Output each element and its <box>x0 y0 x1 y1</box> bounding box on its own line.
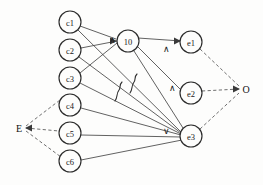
gate-and-e2: ∧ <box>169 83 176 93</box>
dashed-edge-group-input <box>25 100 61 157</box>
diagram-canvas: ∧ ∧ ∧ ∨ c1 c2 c3 c4 <box>0 0 263 185</box>
terminal-label-group: E O <box>16 84 250 134</box>
node-10-label: 10 <box>124 37 133 47</box>
node-c1[interactable]: c1 <box>59 11 81 33</box>
node-c2[interactable]: c2 <box>59 39 81 61</box>
node-e1-label: e1 <box>187 38 195 48</box>
cause-node-group: c1 c2 c3 c4 c5 c6 <box>59 11 81 172</box>
node-c4-label: c4 <box>66 101 75 111</box>
middle-node-group: 10 <box>117 30 139 52</box>
squiggle-mark-2 <box>130 74 137 93</box>
solid-edge-group-to-n10 <box>80 26 117 73</box>
node-10[interactable]: 10 <box>117 30 139 52</box>
node-e3[interactable]: e3 <box>180 125 202 147</box>
terminal-label-O: O <box>242 84 249 95</box>
node-c5-label: c5 <box>66 129 74 139</box>
node-c5[interactable]: c5 <box>59 122 81 144</box>
node-e2-label: e2 <box>187 89 195 99</box>
node-c6-label: c6 <box>66 157 74 167</box>
node-e3-label: e3 <box>187 132 195 142</box>
node-c6[interactable]: c6 <box>59 150 81 172</box>
node-c3[interactable]: c3 <box>59 67 81 89</box>
effect-node-group: e1 e2 e3 <box>180 31 202 147</box>
node-e1[interactable]: e1 <box>180 31 202 53</box>
node-c3-label: c3 <box>66 74 74 84</box>
node-c1-label: c1 <box>66 18 74 28</box>
gate-and-e1: ∧ <box>163 44 170 54</box>
dashed-edge-E-c6 <box>26 131 61 157</box>
terminal-label-E: E <box>16 123 22 134</box>
dashed-edge-E-c4 <box>26 100 60 126</box>
node-e2[interactable]: e2 <box>180 82 202 104</box>
arrowhead-into-O <box>233 86 240 93</box>
dashed-edge-group-output <box>200 49 240 129</box>
dashed-edge-e1-O <box>200 49 239 86</box>
diagram-svg: ∧ ∧ ∧ ∨ c1 c2 c3 c4 <box>0 0 263 185</box>
gate-or-e3: ∨ <box>163 126 170 136</box>
dashed-edge-e3-O <box>200 93 239 129</box>
gate-and-n10: ∧ <box>109 35 116 45</box>
solid-edge-c6-e3 <box>81 140 182 160</box>
gate-symbol-group: ∧ ∧ ∧ ∨ <box>109 35 176 136</box>
node-c4[interactable]: c4 <box>59 94 81 116</box>
node-c2-label: c2 <box>66 46 74 56</box>
